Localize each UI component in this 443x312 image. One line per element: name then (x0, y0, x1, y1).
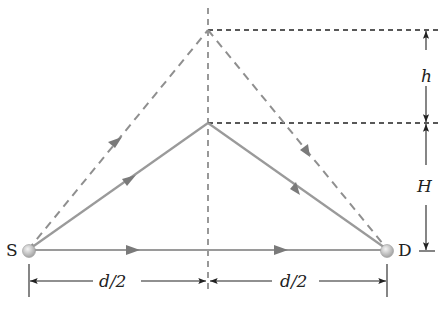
arrow-icon (108, 137, 122, 148)
source-label: S (6, 242, 18, 259)
half-distance-label-left: d/2 (99, 273, 126, 290)
arrow-icon (300, 144, 310, 157)
interference-diagram (0, 0, 443, 312)
h-label: h (421, 68, 432, 85)
H-label: H (417, 178, 432, 195)
detector-node (381, 245, 394, 258)
half-distance-label-right: d/2 (280, 273, 307, 290)
detector-label: D (398, 242, 412, 259)
arrow-icon (274, 245, 288, 255)
arrow-icon (126, 245, 140, 255)
half-distance-dimension (29, 264, 387, 297)
arrow-icon (122, 175, 136, 186)
arrow-icon (290, 182, 300, 195)
source-node (23, 245, 36, 258)
